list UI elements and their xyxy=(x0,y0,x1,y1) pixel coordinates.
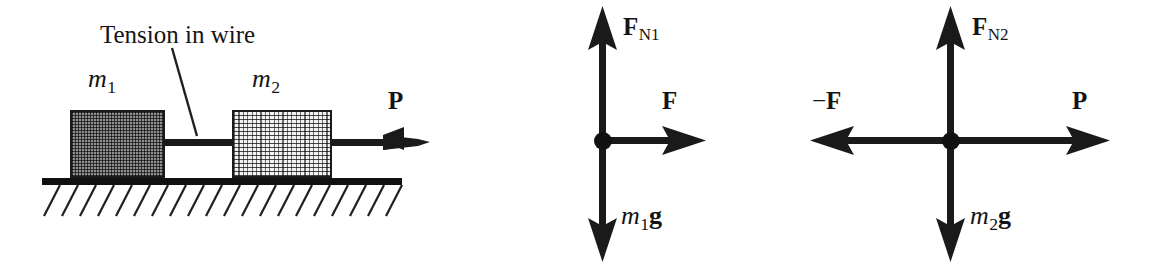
fbd1-tension-force-label: F xyxy=(662,88,677,113)
fbd2-applied-force-label: P xyxy=(1072,88,1087,113)
fbd1-weight-gravity-symbol: g xyxy=(649,201,662,230)
fbd1-weight-label: m1g xyxy=(621,203,662,233)
scene-panel: Tension in wire m1 m2 P xyxy=(0,0,440,272)
block1-mass-symbol: m xyxy=(88,64,107,93)
leader-line-icon xyxy=(0,0,440,272)
scene-force-p-label: P xyxy=(388,88,403,113)
fbd2-weight-gravity-symbol: g xyxy=(998,201,1011,230)
fbd1-normal-force-subscript: N1 xyxy=(638,25,659,44)
fbd2-weight-subscript: 2 xyxy=(989,214,998,234)
fbd1-origin-dot xyxy=(594,132,612,150)
physics-figure: Tension in wire m1 m2 P xyxy=(0,0,1176,272)
ground-hatch-icon xyxy=(42,184,404,218)
fbd1-tension-force-symbol: F xyxy=(662,87,677,114)
block2-label: m2 xyxy=(252,66,280,96)
block2-mass-symbol: m xyxy=(252,64,271,93)
fbd2-origin-dot xyxy=(942,132,960,150)
fbd2-weight-mass-symbol: m xyxy=(970,201,989,230)
fbd2-reaction-minus-sign: − xyxy=(812,87,826,114)
block-m1 xyxy=(70,110,165,178)
fbd2-normal-force-label: FN2 xyxy=(972,14,1008,43)
connecting-wire xyxy=(160,139,232,146)
fbd2-reaction-force-label: −F xyxy=(812,88,841,113)
fbd2-normal-force-subscript: N2 xyxy=(987,25,1008,44)
block2-mass-subscript: 2 xyxy=(271,77,280,97)
fbd2-weight-label: m2g xyxy=(970,203,1011,233)
scene-force-p-symbol: P xyxy=(388,87,403,114)
fbd1-weight-subscript: 1 xyxy=(640,214,649,234)
block-m2 xyxy=(232,110,332,178)
fbd2-reaction-force-symbol: F xyxy=(826,87,841,114)
free-body-diagram-block-1: FN1 F m1g xyxy=(520,0,780,272)
fbd1-normal-force-symbol: F xyxy=(623,13,638,40)
block1-label: m1 xyxy=(88,66,116,96)
scene-force-p-arrow-icon xyxy=(380,124,440,162)
block1-mass-subscript: 1 xyxy=(107,77,116,97)
fbd1-weight-mass-symbol: m xyxy=(621,201,640,230)
fbd2-applied-force-symbol: P xyxy=(1072,87,1087,114)
fbd1-normal-force-label: FN1 xyxy=(623,14,659,43)
fbd2-normal-force-symbol: F xyxy=(972,13,987,40)
free-body-diagram-block-2: FN2 −F P m2g xyxy=(800,0,1176,272)
